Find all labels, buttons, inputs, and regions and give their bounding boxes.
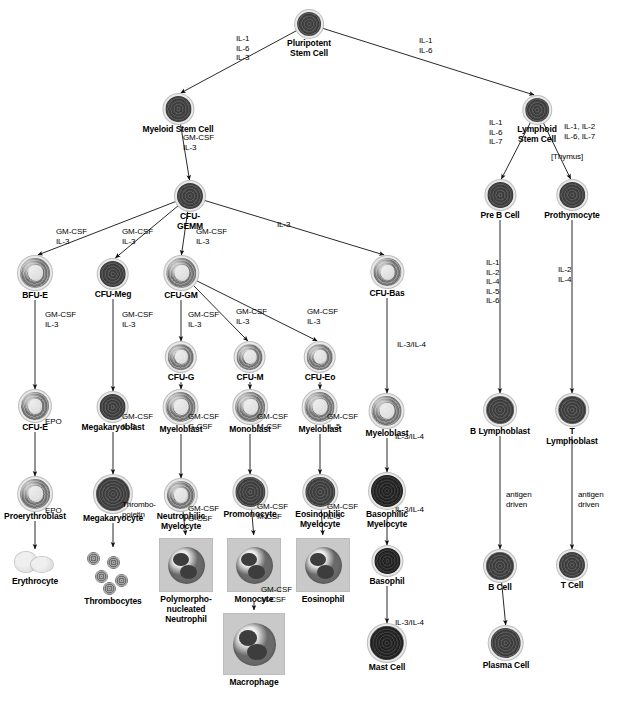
cfu_gemm-glyph [177, 183, 203, 209]
cell-node-myeloid_stem: Myeloid Stem Cell [142, 96, 213, 134]
pre_b_cell-glyph [480, 182, 519, 208]
cytokine-label-lbl-eos-myelo: GM-CSF IL-5 [327, 502, 358, 521]
mast_cell-glyph [369, 626, 405, 660]
eosinophil-glyph [296, 538, 350, 592]
cytokine-label-lbl-bas-myelo: IL-3/IL-4 [397, 340, 426, 350]
bfu_e-glyph [20, 258, 50, 288]
cytokine-label-lbl-pluri-right: IL-1 IL-6 [419, 36, 432, 55]
cell-node-macrophage: Macrophage [223, 613, 285, 687]
cell-node-prothymocyte: Prothymocyte [544, 182, 599, 220]
cytokine-label-lbl-lymph-right: IL-1, IL-2 IL-6, IL-7 [564, 122, 595, 141]
cell-label-eosinophil: Eosinophil [296, 594, 350, 604]
cell-label-t_lymphoblast: T Lymphoblast [546, 426, 597, 446]
cell-node-pluripotent: Pluripotent Stem Cell [287, 12, 331, 58]
cell-label-cfu_m: CFU-M [237, 372, 264, 382]
cytokine-label-lbl-cfug: GM-CSF IL-3 [188, 310, 219, 329]
erythrocyte-glyph [12, 552, 58, 574]
cell-node-basophilic_myelo: Basophilic Myelocyte [366, 475, 408, 529]
lymphoid_stem-glyph [517, 98, 557, 122]
cell-label-basophil: Basophil [369, 576, 404, 586]
cell-node-eosinophil: Eosinophil [296, 538, 350, 604]
proerythroblast-glyph [4, 479, 66, 509]
cfu_bas-glyph [369, 258, 404, 286]
hematopoiesis-diagram: Pluripotent Stem CellMyeloid Stem CellLy… [0, 0, 619, 709]
cell-label-b_cell: B Cell [486, 582, 514, 592]
cell-node-cfu_gemm: CFU- GEMM [177, 183, 203, 231]
cell-node-pre_b_cell: Pre B Cell [480, 182, 519, 220]
cell-node-erythrocyte: Erythrocyte [12, 552, 58, 586]
cell-node-t_cell: T Cell [559, 552, 585, 590]
cytokine-label-lbl-myeloid-gm: GM-CSF IL-3 [183, 133, 214, 152]
cell-label-b_lymphoblast: B Lymphoblast [470, 426, 530, 436]
b_cell-glyph [486, 552, 514, 580]
cytokine-label-lbl-lymph-left: IL-1 IL-6 IL-7 [489, 118, 502, 147]
myeloid_stem-glyph [142, 96, 213, 122]
cell-label-t_cell: T Cell [559, 580, 585, 590]
cytokine-label-lbl-myeloblast-bas: IL-3/IL-4 [395, 432, 424, 442]
cell-node-cfu_gm: CFU-GM [164, 258, 197, 300]
cell-label-bfu_e: BFU-E [20, 290, 50, 300]
pluripotent-glyph [287, 12, 331, 36]
cytokine-label-lbl-thymus: [Thymus] [551, 152, 583, 162]
cell-label-plasma_cell: Plasma Cell [483, 660, 530, 670]
cell-node-bfu_e: BFU-E [20, 258, 50, 300]
plasma_cell-glyph [483, 628, 530, 658]
cytokine-label-lbl-baso-mast: IL-3/IL-4 [395, 618, 424, 628]
b_lymphoblast-glyph [470, 396, 530, 424]
cfu_e-glyph [21, 392, 49, 420]
pmn_neutrophil-glyph [159, 538, 213, 592]
cell-node-cfu_bas: CFU-Bas [369, 258, 404, 298]
cfu_eo-glyph [305, 344, 336, 370]
cytokine-label-lbl-b-antigen: antigen driven [506, 490, 532, 509]
cell-node-b_lymphoblast: B Lymphoblast [470, 396, 530, 436]
macrophage-glyph [223, 613, 285, 675]
cell-node-thrombocytes: Thrombocytes [83, 550, 143, 606]
basophilic_myelo-glyph [366, 475, 408, 507]
cell-label-cfu_bas: CFU-Bas [369, 288, 404, 298]
cytokine-label-lbl-preb: IL-1 IL-2 IL-4 IL-5 IL-6 [486, 258, 499, 306]
cytokine-label-lbl-cfubas-in: IL-3 [277, 220, 290, 230]
cell-node-cfu_meg: CFU-Meg [95, 261, 132, 299]
cytokine-label-lbl-cfum: GM-CSF IL-3 [236, 307, 267, 326]
cell-label-pre_b_cell: Pre B Cell [480, 210, 519, 220]
cytokine-label-lbl-monoblast: GM-CSF M-CSF [257, 412, 288, 431]
cell-node-t_lymphoblast: T Lymphoblast [546, 396, 597, 446]
cfu_gm-glyph [164, 258, 197, 288]
cytokine-label-lbl-bfue-cfue: GM-CSF IL-3 [45, 310, 76, 329]
t_cell-glyph [559, 552, 585, 578]
cytokine-label-lbl-t-antigen: antigen driven [578, 490, 604, 509]
cell-label-pluripotent: Pluripotent Stem Cell [287, 38, 331, 58]
cell-node-mast_cell: Mast Cell [369, 626, 405, 672]
cytokine-label-lbl-cfumeg: GM-CSF IL-3 [122, 227, 153, 246]
cell-node-b_cell: B Cell [486, 552, 514, 592]
cytokine-label-lbl-myeloblast-eo: GM-CSF IL-5 [327, 412, 358, 431]
myeloblast_bas-glyph [366, 396, 409, 426]
cytokine-label-lbl-mono-macro: GM-CSF M-CSF [261, 585, 292, 604]
arrow-cfu_gemm-to-cfu_bas [203, 200, 384, 255]
cell-label-prothymocyte: Prothymocyte [544, 210, 599, 220]
monocyte-glyph [227, 538, 281, 592]
cytokine-label-lbl-meg-blast: GM-CSF IL-3 [122, 310, 153, 329]
cytokine-label-lbl-promono: GM-CSF M-CSF [257, 502, 288, 521]
cytokine-label-lbl-bfue: GM-CSF IL-3 [56, 227, 87, 246]
basophil-glyph [369, 548, 404, 574]
cytokine-label-lbl-cfueo: GM-CSF IL-3 [307, 307, 338, 326]
cytokine-label-lbl-thrombo: Thrombo- poietin [122, 500, 156, 519]
t_lymphoblast-glyph [546, 396, 597, 424]
prothymocyte-glyph [544, 182, 599, 208]
cell-label-lymphoid_stem: Lymphoid Stem Cell [517, 124, 557, 144]
cytokine-label-lbl-pluri-left: IL-1 IL-6 IL-3 [236, 34, 249, 63]
cytokine-label-lbl-cfugm-in: GM-CSF IL-3 [196, 227, 227, 246]
cfu_m-glyph [237, 344, 264, 370]
thrombocytes-glyph [83, 550, 143, 594]
cell-node-basophil: Basophil [369, 548, 404, 586]
cell-node-cfu_m: CFU-M [237, 344, 264, 382]
cytokine-label-lbl-pro-ery: EPO [45, 506, 62, 516]
cell-label-thrombocytes: Thrombocytes [83, 596, 143, 606]
cell-node-pmn_neutrophil: Polymorpho- nucleated Neutrophil [159, 538, 213, 624]
cell-label-macrophage: Macrophage [223, 677, 285, 687]
cytokine-label-lbl-megakaryo: GM-CSF IL-3 [122, 412, 153, 431]
cytokine-label-lbl-baso-myelo: IL-3/IL-4 [395, 505, 424, 515]
cell-node-plasma_cell: Plasma Cell [483, 628, 530, 670]
cell-label-cfu_meg: CFU-Meg [95, 289, 132, 299]
